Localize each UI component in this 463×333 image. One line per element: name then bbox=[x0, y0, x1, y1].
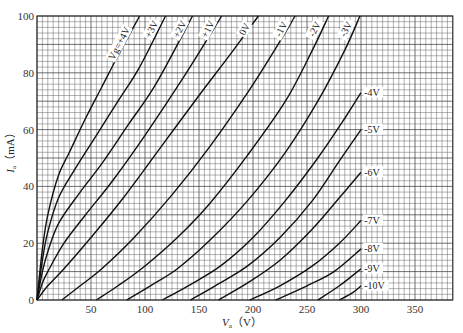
y-tick-label: 0 bbox=[29, 294, 35, 306]
curve-labels: Vg=+4V+3V+2V+1V0V-1V-2V-3V-4V-5V-6V-7V-8… bbox=[105, 17, 388, 291]
x-tick-label: 50 bbox=[86, 303, 98, 315]
curve-label: +3V bbox=[142, 17, 161, 41]
curve-label: -6V bbox=[364, 167, 380, 178]
x-axis-title: Va（V） bbox=[222, 316, 262, 330]
plate-characteristics-chart: Vg=+4V+3V+2V+1V0V-1V-2V-3V-4V-5V-6V-7V-8… bbox=[0, 0, 463, 333]
y-tick-label: 80 bbox=[23, 67, 35, 79]
curve-label: -4V bbox=[364, 87, 380, 98]
y-tick-label: 100 bbox=[18, 10, 35, 22]
x-tick-label: 150 bbox=[191, 303, 208, 315]
x-tick-label: 300 bbox=[353, 303, 370, 315]
y-tick-label: 60 bbox=[23, 124, 35, 136]
x-axis-ticks: 50100150200250300350 bbox=[86, 303, 424, 315]
curve--8v bbox=[276, 249, 361, 300]
x-tick-label: 200 bbox=[245, 303, 262, 315]
x-tick-label: 250 bbox=[299, 303, 316, 315]
svg-text:Ia（mA）: Ia（mA） bbox=[4, 127, 18, 173]
curve-label: 0V bbox=[236, 20, 253, 39]
y-tick-label: 40 bbox=[23, 180, 35, 192]
curve-label: -7V bbox=[364, 215, 380, 226]
curve-label: -9V bbox=[364, 263, 380, 274]
svg-text:Va（V）: Va（V） bbox=[222, 316, 262, 330]
curve-label: -2V bbox=[305, 17, 324, 41]
curve-label: -8V bbox=[364, 243, 380, 254]
y-tick-label: 20 bbox=[23, 237, 35, 249]
x-tick-label: 100 bbox=[137, 303, 154, 315]
curve-label: -3V bbox=[336, 17, 355, 41]
y-axis-ticks: 020406080100 bbox=[18, 10, 35, 306]
x-tick-label: 350 bbox=[407, 303, 424, 315]
y-axis-title: Ia（mA） bbox=[4, 127, 18, 173]
curve-label: -10V bbox=[364, 280, 385, 291]
curve-label: -5V bbox=[364, 124, 380, 135]
